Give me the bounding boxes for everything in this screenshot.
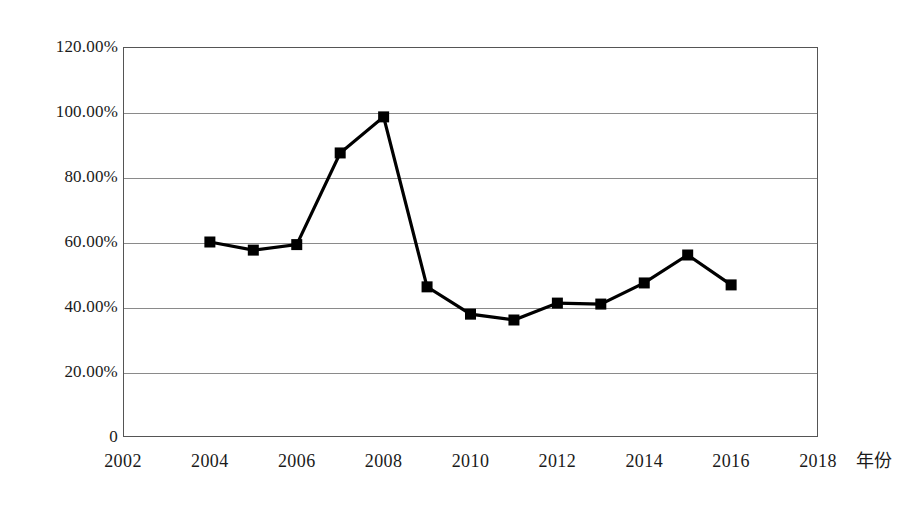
x-axis-tick-label: 2014 (625, 452, 663, 470)
x-axis-tick-label: 2006 (278, 452, 316, 470)
x-axis-tick-label: 2004 (191, 452, 229, 470)
x-axis-tick-label: 2016 (712, 452, 750, 470)
x-axis-tick-label: 2018 (799, 452, 837, 470)
x-axis-tick-label: 2010 (452, 452, 490, 470)
x-axis-tick-labels: 年份 200220042006200820102012201420162018 (0, 0, 915, 510)
x-axis-title: 年份 (856, 452, 892, 470)
x-axis-tick-label: 2008 (365, 452, 403, 470)
x-axis-tick-label: 2012 (539, 452, 577, 470)
x-axis-tick-label: 2002 (104, 452, 142, 470)
line-chart: 020.00%40.00%60.00%80.00%100.00%120.00% … (0, 0, 915, 510)
